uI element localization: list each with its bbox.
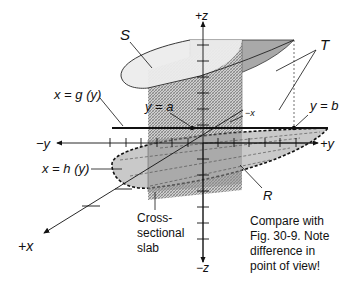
- label-minus-y: −y: [36, 136, 52, 151]
- label-plus-y: +y: [320, 136, 336, 151]
- label-x-eq-g: x = g (y): [53, 87, 101, 102]
- region-r: [112, 128, 328, 192]
- label-plus-x: +x: [18, 238, 34, 254]
- label-slab-1: Cross-: [137, 211, 172, 225]
- note-line-3: difference in: [250, 244, 315, 258]
- note-line-2: Fig. 30-9. Note: [250, 229, 330, 243]
- label-y-eq-a: y = a: [144, 99, 174, 114]
- note-line-1: Compare with: [250, 214, 324, 228]
- label-r: R: [263, 188, 272, 203]
- label-s: S: [120, 26, 130, 43]
- label-slab-3: slab: [137, 241, 159, 255]
- note-line-4: point of view!: [250, 259, 320, 273]
- label-slab-2: sectional: [137, 226, 184, 240]
- label-plus-z: +z: [195, 9, 208, 23]
- label-minus-z: −z: [196, 261, 209, 275]
- volume-integration-diagram: S T x = g (y) y = a y = b +z −z +y −y +x…: [0, 0, 360, 285]
- label-y-eq-b: y = b: [309, 98, 339, 113]
- label-minus-x: −x: [245, 108, 255, 118]
- label-x-eq-h: x = h (y): [41, 161, 89, 176]
- label-t: T: [320, 36, 331, 53]
